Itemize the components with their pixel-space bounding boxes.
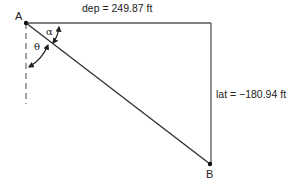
latitude-label: lat = −180.94 ft (216, 88, 286, 100)
departure-label: dep = 249.87 ft (82, 2, 152, 14)
point-a-label: A (15, 10, 23, 22)
alpha-arc (53, 27, 59, 43)
point-b-label: B (206, 168, 213, 180)
traverse-diagram: A B dep = 249.87 ft lat = −180.94 ft α θ (0, 0, 307, 189)
traverse-line-ab (26, 23, 210, 164)
alpha-symbol: α (46, 26, 53, 37)
point-b (208, 162, 212, 166)
theta-symbol: θ (34, 41, 40, 52)
point-a (24, 21, 28, 25)
